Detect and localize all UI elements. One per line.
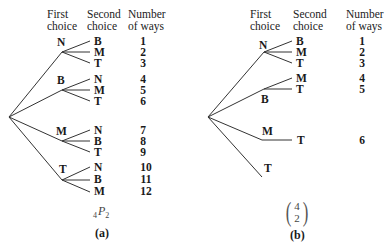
header-line: First — [250, 8, 280, 20]
ways-count: 5 — [352, 84, 372, 96]
header-line: of ways — [346, 20, 384, 32]
header-line: Number — [346, 8, 384, 20]
ways-count: 6 — [352, 135, 372, 147]
caption-b: (b) — [290, 229, 305, 241]
header-second-choice: Second choice — [293, 8, 327, 32]
first-choice-label: M — [262, 126, 273, 138]
first-choice-label: T — [264, 163, 272, 175]
combination-formula: ( 4 2 ) — [284, 198, 310, 226]
binomial-stack: 4 2 — [294, 200, 300, 224]
second-choice-label: T — [297, 135, 305, 147]
header-line: Second — [293, 8, 327, 20]
header-line: choice — [293, 20, 327, 32]
formula-k: 2 — [294, 212, 300, 224]
second-choice-label: T — [296, 84, 304, 96]
left-paren-icon: ( — [286, 198, 292, 226]
first-choice-label: B — [261, 94, 269, 106]
header-number-of-ways: Number of ways — [346, 8, 384, 32]
header-first-choice: First choice — [250, 8, 280, 32]
formula-n: 4 — [294, 200, 300, 212]
first-choice-label: N — [259, 40, 267, 52]
header-line: choice — [250, 20, 280, 32]
ways-count: 3 — [352, 58, 372, 70]
right-paren-icon: ) — [303, 198, 309, 226]
second-choice-label: T — [296, 58, 304, 70]
tree-diagram-b — [0, 0, 388, 230]
